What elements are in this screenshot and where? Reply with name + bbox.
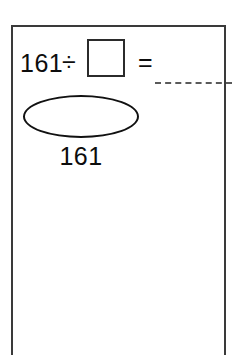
answer-blank-line[interactable]: [155, 82, 232, 84]
quotient-input-box[interactable]: [87, 39, 125, 77]
worksheet-card: 161 ÷ = 161: [11, 25, 226, 355]
blank-work-area[interactable]: [15, 195, 224, 355]
ellipse-icon[interactable]: [23, 95, 139, 138]
division-problem-row: 161 ÷ =: [20, 38, 224, 94]
ellipse-label: 161: [21, 144, 141, 169]
grouping-diagram: 161: [21, 92, 141, 192]
equals-icon: =: [138, 50, 153, 75]
dividend-value: 161: [20, 51, 63, 76]
divide-icon: ÷: [62, 50, 76, 75]
